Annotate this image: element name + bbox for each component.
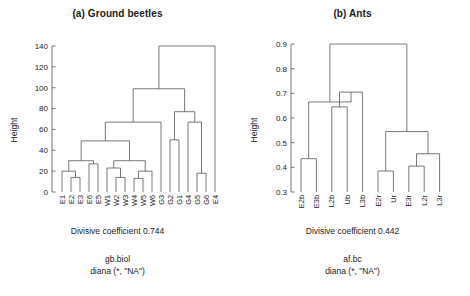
leaf-label: G3 — [157, 195, 166, 205]
y-tick-label: 0.8 — [276, 65, 288, 74]
leaf-label: E2 — [67, 195, 76, 204]
leaf-label: W1 — [103, 195, 112, 206]
panel-b-y-axis: 0.30.40.50.60.70.80.9 — [276, 40, 295, 197]
y-tick-label: 40 — [39, 146, 48, 155]
y-tick-label: 0.9 — [276, 40, 288, 49]
leaf-label: E1 — [58, 195, 67, 204]
y-tick-label: 0 — [44, 188, 49, 197]
panel-b-leaf-labels: E2bE3bL2bUbL3bE2rUrE3rL2rL3r — [297, 194, 445, 208]
leaf-label: W5 — [139, 195, 148, 206]
leaf-label: E5 — [94, 195, 103, 204]
y-tick-label: 0.7 — [276, 89, 288, 98]
leaf-label: G2 — [166, 195, 175, 205]
leaf-label: E3b — [312, 195, 321, 208]
panel-b-method-caption: diana (*, "NA") — [235, 266, 470, 276]
y-tick-label: 120 — [35, 63, 49, 72]
panel-b-divisive-coefficient: Divisive coefficient 0.442 — [235, 226, 470, 236]
leaf-label: Ur — [389, 194, 398, 202]
leaf-label: W3 — [121, 195, 130, 206]
panel-b-axis-title: Height — [249, 117, 259, 142]
panel-ground-beetles: (a) Ground beetles 020406080100120140 E1… — [0, 0, 235, 296]
y-tick-label: 0.3 — [276, 188, 288, 197]
leaf-label: E2r — [374, 194, 383, 206]
y-tick-label: 60 — [39, 125, 48, 134]
panel-a-divisive-coefficient: Divisive coefficient 0.744 — [0, 226, 235, 236]
leaf-label: L3b — [358, 195, 367, 207]
leaf-label: G4 — [184, 195, 193, 205]
y-tick-label: 80 — [39, 104, 48, 113]
leaf-label: W2 — [112, 195, 121, 206]
leaf-label: E2b — [297, 195, 306, 208]
leaf-label: L2r — [420, 194, 429, 205]
leaf-label: W6 — [148, 195, 157, 206]
leaf-label: G1 — [175, 195, 184, 205]
y-tick-label: 100 — [35, 84, 49, 93]
leaf-label: E3 — [76, 195, 85, 204]
panel-b-dataset-name: af.bc — [235, 254, 470, 264]
dendrogram-figure: (a) Ground beetles 020406080100120140 E1… — [0, 0, 470, 296]
panel-b-plot: 0.30.40.50.60.70.80.9 E2bE3bL2bUbL3bE2rU… — [235, 0, 470, 296]
panel-a-dendrogram-tree — [62, 46, 215, 192]
panel-ants: (b) Ants 0.30.40.50.60.70.80.9 E2bE3bL2b… — [235, 0, 470, 296]
leaf-label: G5 — [193, 195, 202, 205]
panel-a-dataset-name: gb.biol — [0, 254, 235, 264]
leaf-label: Ub — [343, 195, 352, 204]
panel-a-method-caption: diana (*, "NA") — [0, 266, 235, 276]
y-tick-label: 0.6 — [276, 114, 288, 123]
leaf-label: E4 — [211, 195, 220, 204]
y-tick-label: 0.4 — [276, 163, 288, 172]
leaf-label: L2b — [327, 195, 336, 207]
leaf-label: W4 — [130, 195, 139, 206]
panel-a-axis-title: Height — [9, 117, 19, 142]
panel-a-plot: 020406080100120140 E1E2E3E6E5W1W2W3W4W5W… — [0, 0, 235, 296]
panel-a-y-axis: 020406080100120140 — [35, 42, 56, 197]
leaf-label: L3r — [435, 194, 444, 205]
panel-a-leaf-labels: E1E2E3E6E5W1W2W3W4W5W6G3G2G1G4G5G6E4 — [58, 195, 220, 206]
leaf-label: E3r — [404, 194, 413, 206]
leaf-label: G6 — [202, 195, 211, 205]
y-tick-label: 20 — [39, 167, 48, 176]
y-tick-label: 140 — [35, 42, 49, 51]
leaf-label: E6 — [85, 195, 94, 204]
panel-b-dendrogram-tree — [301, 44, 440, 192]
y-tick-label: 0.5 — [276, 139, 288, 148]
